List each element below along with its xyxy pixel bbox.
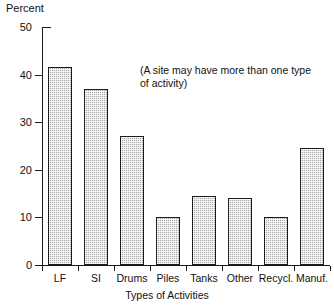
x-axis-tick (258, 266, 259, 271)
x-axis-tick-label: Manuf. (294, 272, 330, 284)
bar-recycl (264, 217, 288, 265)
x-axis-tick-label: Recycl. (258, 272, 294, 284)
y-axis-tick (35, 217, 43, 218)
y-axis-title: Percent (6, 2, 44, 15)
chart-annotation-line: of activity) (140, 77, 330, 90)
x-axis-tick (78, 266, 79, 271)
chart-annotation: (A site may have more than one typeof ac… (140, 64, 330, 89)
x-axis-tick-label: Piles (150, 272, 186, 284)
bar-other (228, 198, 252, 265)
y-axis-tick-label: 30 (8, 117, 32, 128)
x-axis-tick-label: Drums (114, 272, 150, 284)
bar-chart: Percent 01020304050 LFSIDrumsPilesTanksO… (0, 0, 334, 305)
y-axis-tick-label: 10 (8, 212, 32, 223)
x-axis-title: Types of Activities (0, 289, 334, 301)
x-axis-tick-label: Other (222, 272, 258, 284)
bar-tanks (192, 196, 216, 265)
x-axis-tick-label: SI (78, 272, 114, 284)
y-axis-tick-label: 40 (8, 70, 32, 81)
x-axis-tick (186, 266, 187, 271)
y-axis-tick (35, 170, 43, 171)
x-axis-tick (294, 266, 295, 271)
x-axis-tick (330, 266, 331, 271)
y-axis-tick-label: 50 (8, 22, 32, 33)
bar-piles (156, 217, 180, 265)
x-axis-tick-label: Tanks (186, 272, 222, 284)
x-axis-tick (222, 266, 223, 271)
y-axis-tick (35, 122, 43, 123)
x-axis-tick (150, 266, 151, 271)
y-axis-tick (35, 75, 43, 76)
bar-si (84, 89, 108, 265)
bar-manuf (300, 148, 324, 265)
bar-drums (120, 136, 144, 265)
x-axis-tick (114, 266, 115, 271)
y-axis-tick-label: 0 (8, 260, 32, 271)
x-axis-tick-label: LF (42, 272, 78, 284)
x-axis-tick (42, 266, 43, 271)
chart-annotation-line: (A site may have more than one type (140, 64, 330, 77)
y-axis-tick (42, 27, 51, 28)
y-axis-tick-label: 20 (8, 165, 32, 176)
y-axis-line (42, 27, 43, 266)
bar-lf (48, 67, 72, 265)
